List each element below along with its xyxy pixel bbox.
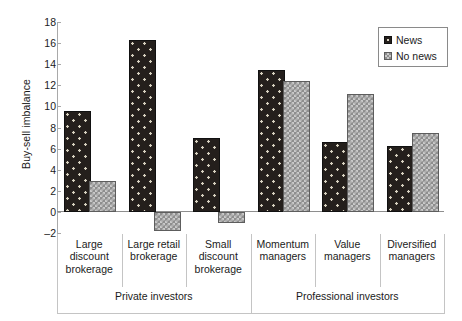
bar-group xyxy=(315,22,380,233)
band-separator xyxy=(122,234,123,287)
category-label-text: Valuemanagers xyxy=(324,238,371,263)
y-tick-label: 12 xyxy=(0,79,63,91)
bar-news xyxy=(322,142,349,212)
y-tick-label: 6 xyxy=(0,143,63,155)
category-label: Valuemanagers xyxy=(315,234,380,287)
bar-group xyxy=(186,22,251,233)
bar-news xyxy=(64,111,91,212)
category-label: Smalldiscountbrokerage xyxy=(186,234,251,287)
category-label: Momentummanagers xyxy=(251,234,316,287)
category-label: Diversifiedmanagers xyxy=(380,234,445,287)
bar-no-news xyxy=(283,81,310,212)
group-label-band: Private investorsProfessional investors xyxy=(57,287,444,314)
legend-swatch-icon xyxy=(384,36,392,44)
y-tick-label: 14 xyxy=(0,58,63,70)
y-tick-label: 16 xyxy=(0,37,63,49)
bar-news xyxy=(258,70,285,212)
bar-no-news xyxy=(89,181,116,211)
y-tick-label: 18 xyxy=(0,16,63,28)
y-tick-label: 10 xyxy=(0,100,63,112)
group-label-text: Private investors xyxy=(115,290,193,302)
group-separator xyxy=(251,287,252,314)
y-tick-label: 4 xyxy=(0,164,63,176)
category-label-text: Diversifiedmanagers xyxy=(387,238,436,263)
bar-news xyxy=(193,138,220,212)
bar-no-news xyxy=(347,94,374,212)
band-separator xyxy=(186,234,187,287)
bar-no-news xyxy=(412,133,439,212)
category-label-text: Large retailbrokerage xyxy=(127,238,180,263)
category-label-text: Smalldiscountbrokerage xyxy=(195,238,242,275)
bar-news xyxy=(129,40,156,212)
y-tick-label: 2 xyxy=(0,185,63,197)
band-separator xyxy=(251,234,252,287)
bar-no-news xyxy=(154,212,181,231)
category-label: Large retailbrokerage xyxy=(122,234,187,287)
bar-news xyxy=(387,146,414,212)
group-separator xyxy=(57,287,58,314)
group-separator xyxy=(444,287,445,314)
category-label: Largediscountbrokerage xyxy=(57,234,122,287)
y-tick-label: 8 xyxy=(0,122,63,134)
category-label-text: Momentummanagers xyxy=(256,238,309,263)
y-tick-label: 0 xyxy=(0,206,63,218)
band-bottom-rule xyxy=(57,313,444,314)
band-separator xyxy=(315,234,316,287)
legend-item[interactable]: News xyxy=(384,32,447,48)
group-label-text: Professional investors xyxy=(296,290,399,302)
bar-group xyxy=(251,22,316,233)
bar-chart: Buy-sell imbalance –2024681012141618 Lar… xyxy=(0,0,462,321)
legend-item[interactable]: No news xyxy=(384,48,447,64)
band-separator xyxy=(380,234,381,287)
band-separator xyxy=(57,234,58,287)
legend-label: No news xyxy=(396,50,437,62)
bar-no-news xyxy=(218,212,245,223)
category-label-band: LargediscountbrokerageLarge retailbroker… xyxy=(57,234,444,287)
legend-label: News xyxy=(396,34,422,46)
category-label-text: Largediscountbrokerage xyxy=(66,238,113,275)
group-label: Private investors xyxy=(57,287,251,314)
y-tick-label: –2 xyxy=(0,227,63,239)
group-label: Professional investors xyxy=(251,287,445,314)
chart-legend: NewsNo news xyxy=(378,27,448,67)
bar-group xyxy=(57,22,122,233)
bar-group xyxy=(122,22,187,233)
legend-swatch-icon xyxy=(384,52,392,60)
band-separator xyxy=(444,234,445,287)
